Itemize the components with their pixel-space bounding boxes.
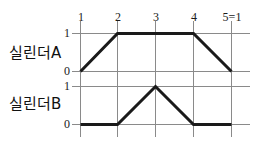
timing-diagram: 1 2 3 4 5=1 1 0 1 0 실린더A 실린더B <box>0 0 259 141</box>
x-tick-label-2: 2 <box>105 12 131 23</box>
y-tick-a-high: 1 <box>58 28 70 39</box>
x-tick-label-3: 3 <box>143 12 169 23</box>
series-label-cylinder-a: 실린더A <box>9 45 61 61</box>
y-tick-b-high: 1 <box>58 81 70 92</box>
series-label-cylinder-b: 실린더B <box>9 96 61 112</box>
y-tick-a-low: 0 <box>58 66 70 77</box>
y-tick-b-low: 0 <box>58 119 70 130</box>
x-tick-label-1: 1 <box>68 12 94 23</box>
x-tick-label-5: 5=1 <box>215 12 249 23</box>
x-tick-label-4: 4 <box>181 12 207 23</box>
